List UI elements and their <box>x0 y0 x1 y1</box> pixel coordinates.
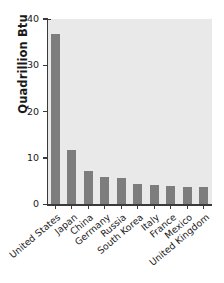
x-tick-mark <box>121 206 122 210</box>
bar <box>51 34 60 204</box>
x-tick-mark <box>203 206 204 210</box>
x-tick-mark <box>187 206 188 210</box>
x-tick-mark <box>137 206 138 210</box>
y-tick-label: 0 <box>9 199 39 209</box>
bar <box>84 171 93 204</box>
x-tick-mark <box>104 206 105 210</box>
x-tick-mark <box>154 206 155 210</box>
bar <box>100 177 109 205</box>
bar <box>183 187 192 204</box>
bar <box>133 184 142 204</box>
bar-chart: Quadrillion Btu 010203040 United StatesJ… <box>0 0 224 283</box>
x-tick-mark <box>170 206 171 210</box>
y-tick-label: 10 <box>9 153 39 163</box>
y-tick-label: 40 <box>9 14 39 24</box>
bars-layer <box>47 19 212 204</box>
y-tick-label: 20 <box>9 107 39 117</box>
x-tick-mark <box>88 206 89 210</box>
bar <box>117 178 126 204</box>
x-tick-mark <box>55 206 56 210</box>
bar <box>67 150 76 204</box>
y-tick-label: 30 <box>9 60 39 70</box>
bar <box>199 187 208 205</box>
x-tick-mark <box>71 206 72 210</box>
bar <box>166 186 175 205</box>
bar <box>150 185 159 204</box>
